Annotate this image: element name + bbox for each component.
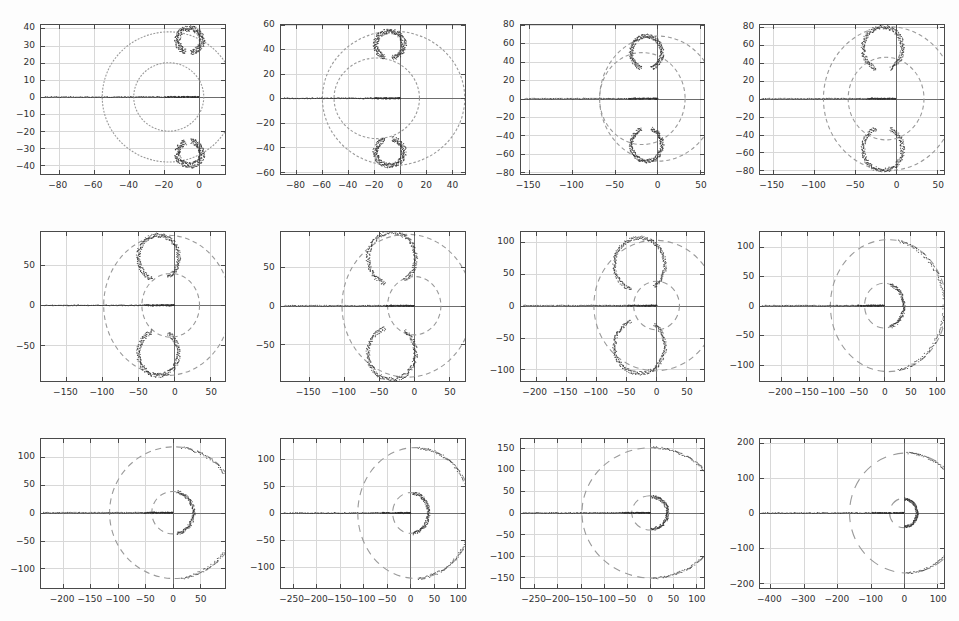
x-tick-mark bbox=[770, 439, 771, 443]
x-tick-label: −50 bbox=[370, 387, 389, 397]
x-tick-mark bbox=[804, 584, 805, 588]
y-tick-mark bbox=[461, 123, 465, 124]
y-tick-mark bbox=[521, 369, 525, 370]
x-tick-mark bbox=[426, 25, 427, 29]
plot-area: −80−60−40−20020406080−150−100−50050 bbox=[759, 24, 945, 175]
x-tick-mark bbox=[673, 439, 674, 443]
y-tick-label: −50 bbox=[16, 341, 35, 351]
y-tick-mark bbox=[760, 365, 764, 366]
y-tick-label: 0 bbox=[29, 300, 35, 310]
y-tick-mark bbox=[521, 80, 525, 81]
y-tick-mark bbox=[221, 165, 225, 166]
y-tick-mark bbox=[41, 46, 45, 47]
x-tick-label: 0 bbox=[172, 387, 178, 397]
y-tick-label: 50 bbox=[263, 262, 274, 272]
x-tick-label: −150 bbox=[53, 387, 78, 397]
y-tick-label: −20 bbox=[16, 127, 35, 137]
y-tick-label: −80 bbox=[496, 168, 515, 178]
x-tick-label: −150 bbox=[794, 387, 819, 397]
y-tick-mark bbox=[760, 443, 764, 444]
axes-box bbox=[40, 231, 226, 382]
axes-box bbox=[759, 231, 945, 382]
x-tick-mark bbox=[904, 584, 905, 588]
y-tick-label: −40 bbox=[496, 131, 515, 141]
y-tick-mark bbox=[521, 448, 525, 449]
x-tick-mark bbox=[896, 25, 897, 29]
x-tick-label: 50 bbox=[444, 387, 455, 397]
x-tick-mark bbox=[626, 377, 627, 381]
y-tick-mark bbox=[521, 43, 525, 44]
x-tick-mark bbox=[296, 170, 297, 174]
x-tick-mark bbox=[700, 25, 701, 29]
y-tick-mark bbox=[461, 74, 465, 75]
y-tick-label: 30 bbox=[24, 40, 35, 50]
x-tick-label: −50 bbox=[617, 387, 636, 397]
y-tick-mark bbox=[281, 98, 285, 99]
y-tick-mark bbox=[760, 583, 764, 584]
plot-area: −50050−150−100−50050 bbox=[280, 231, 466, 382]
y-tick-mark bbox=[940, 365, 944, 366]
x-tick-label: −150 bbox=[759, 180, 784, 190]
y-tick-mark bbox=[700, 577, 704, 578]
x-tick-mark bbox=[316, 439, 317, 443]
y-tick-mark bbox=[41, 63, 45, 64]
y-tick-mark bbox=[940, 152, 944, 153]
y-tick-label: 50 bbox=[743, 271, 754, 281]
data-layer bbox=[281, 25, 465, 174]
y-tick-mark bbox=[461, 513, 465, 514]
subplot-panel-k4: −80−60−40−20020406080−150−100−50050 bbox=[719, 0, 959, 207]
x-tick-mark bbox=[426, 170, 427, 174]
y-tick-mark bbox=[281, 172, 285, 173]
x-tick-mark bbox=[807, 377, 808, 381]
x-tick-label: −50 bbox=[605, 180, 624, 190]
x-tick-mark bbox=[534, 439, 535, 443]
y-tick-label: −100 bbox=[250, 562, 275, 572]
x-tick-label: −250 bbox=[521, 594, 546, 604]
x-tick-mark bbox=[896, 170, 897, 174]
x-tick-mark bbox=[293, 439, 294, 443]
y-tick-mark bbox=[760, 152, 764, 153]
y-tick-label: −100 bbox=[730, 543, 755, 553]
marker-cluster bbox=[762, 24, 906, 172]
x-tick-label: −60 bbox=[312, 180, 331, 190]
y-tick-mark bbox=[281, 267, 285, 268]
x-tick-mark bbox=[686, 377, 687, 381]
x-tick-mark bbox=[63, 439, 64, 443]
x-tick-mark bbox=[536, 377, 537, 381]
x-tick-mark bbox=[164, 170, 165, 174]
y-tick-mark bbox=[41, 568, 45, 569]
y-tick-mark bbox=[700, 117, 704, 118]
y-tick-mark bbox=[221, 345, 225, 346]
x-tick-label: 100 bbox=[688, 594, 705, 604]
x-tick-mark bbox=[348, 25, 349, 29]
x-tick-label: 50 bbox=[195, 594, 206, 604]
y-tick-mark bbox=[221, 46, 225, 47]
y-tick-mark bbox=[940, 335, 944, 336]
y-tick-mark bbox=[940, 45, 944, 46]
x-tick-mark bbox=[344, 232, 345, 236]
x-tick-label: 50 bbox=[205, 387, 216, 397]
y-tick-mark bbox=[940, 81, 944, 82]
x-tick-label: 0 bbox=[902, 594, 908, 604]
y-tick-mark bbox=[461, 267, 465, 268]
x-tick-mark bbox=[145, 439, 146, 443]
y-tick-mark bbox=[940, 478, 944, 479]
x-tick-mark bbox=[410, 439, 411, 443]
y-tick-label: 50 bbox=[503, 486, 514, 496]
y-tick-label: −60 bbox=[496, 149, 515, 159]
x-tick-mark bbox=[673, 584, 674, 588]
y-tick-mark bbox=[700, 154, 704, 155]
y-tick-label: −50 bbox=[496, 530, 515, 540]
x-tick-mark bbox=[572, 25, 573, 29]
y-tick-mark bbox=[760, 478, 764, 479]
data-layer bbox=[41, 232, 225, 381]
x-tick-label: −100 bbox=[331, 387, 356, 397]
y-tick-mark bbox=[281, 459, 285, 460]
x-tick-mark bbox=[94, 170, 95, 174]
y-tick-mark bbox=[521, 62, 525, 63]
x-tick-mark bbox=[596, 377, 597, 381]
y-tick-mark bbox=[521, 534, 525, 535]
x-tick-mark bbox=[66, 377, 67, 381]
y-tick-mark bbox=[940, 135, 944, 136]
x-tick-label: 50 bbox=[905, 387, 916, 397]
